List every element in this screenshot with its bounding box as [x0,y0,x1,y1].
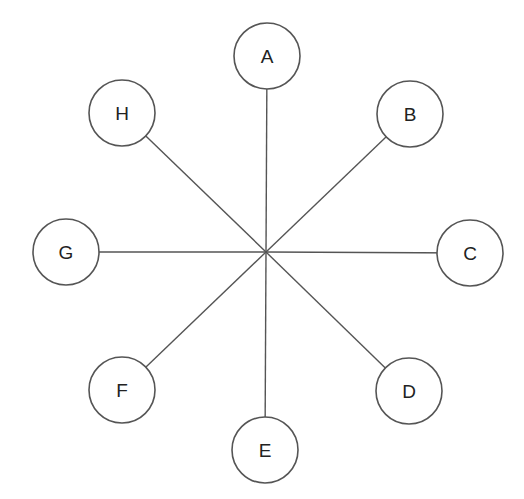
node-label: A [261,46,274,67]
star-diagram: ABCDEFGH [0,0,524,499]
node-f: F [89,357,155,423]
node-d: D [376,358,442,424]
node-label: F [116,380,128,401]
node-label: B [404,104,417,125]
node-label: D [402,381,416,402]
node-c: C [437,220,503,286]
node-label: C [463,243,477,264]
node-h: H [89,80,155,146]
node-g: G [33,219,99,285]
node-label: H [115,103,129,124]
node-label: E [259,440,272,461]
node-label: G [59,242,74,263]
node-a: A [234,23,300,89]
node-b: B [377,81,443,147]
node-e: E [232,417,298,483]
